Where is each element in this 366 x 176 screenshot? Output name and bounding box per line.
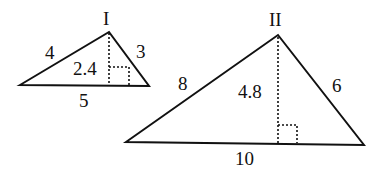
triangle-2-side-right: 6 xyxy=(332,75,342,96)
triangle-2-right-angle-marker xyxy=(278,125,297,143)
triangle-2-side-base: 10 xyxy=(235,148,254,169)
triangle-2-side-left: 8 xyxy=(178,73,188,94)
triangle-1-side-left: 4 xyxy=(45,42,55,63)
triangle-1-label: I xyxy=(103,8,109,29)
triangle-2-label: II xyxy=(269,9,282,30)
triangle-1-height-label: 2.4 xyxy=(73,58,97,79)
triangle-1-right-angle-marker xyxy=(109,67,129,85)
triangle-2-height-label: 4.8 xyxy=(238,81,262,102)
triangle-1-side-right: 3 xyxy=(136,41,146,62)
triangle-1: I 4 3 5 2.4 xyxy=(20,8,149,111)
similar-triangles-diagram: I 4 3 5 2.4 II 8 6 10 4.8 xyxy=(0,0,366,176)
triangle-1-side-base: 5 xyxy=(79,90,89,111)
triangle-2: II 8 6 10 4.8 xyxy=(126,9,364,169)
